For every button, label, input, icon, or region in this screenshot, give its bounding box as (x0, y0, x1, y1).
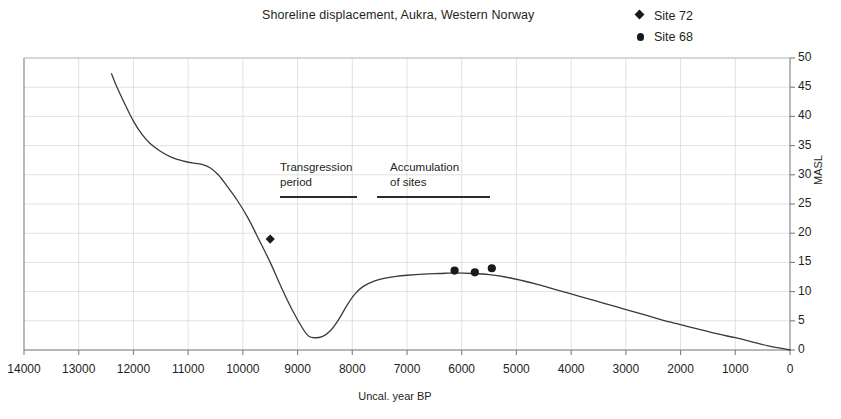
y-tick-label: 20 (798, 225, 824, 239)
y-tick-label: 25 (798, 196, 824, 210)
y-tick-label: 30 (798, 167, 824, 181)
x-tick-label: 0 (760, 362, 820, 376)
axis-lines (24, 58, 795, 355)
chart-figure: Shoreline displacement, Aukra, Western N… (0, 0, 841, 419)
x-tick-label: 8000 (322, 362, 382, 376)
y-tick-label: 45 (798, 79, 824, 93)
legend-label-site-72: Site 72 (654, 9, 693, 23)
y-tick-label: 35 (798, 138, 824, 152)
x-tick-label: 12000 (103, 362, 163, 376)
x-tick-label: 7000 (377, 362, 437, 376)
data-point-circle (471, 268, 479, 276)
legend-item-site-68[interactable]: Site 68 (634, 26, 693, 47)
x-tick-label: 9000 (268, 362, 328, 376)
data-point-circle (451, 266, 459, 274)
x-tick-label: 2000 (651, 362, 711, 376)
annotation-accumulation-bar (377, 196, 490, 198)
annotation-accumulation-line2: of sites (390, 175, 459, 190)
chart-title: Shoreline displacement, Aukra, Western N… (262, 8, 534, 22)
data-point-circle (488, 264, 496, 272)
annotation-accumulation-line1: Accumulation (390, 160, 459, 175)
y-tick-label: 10 (798, 284, 824, 298)
plot-area (0, 0, 841, 419)
gridlines (24, 58, 790, 350)
x-tick-label: 1000 (705, 362, 765, 376)
x-tick-label: 6000 (432, 362, 492, 376)
y-tick-label: 0 (798, 342, 824, 356)
legend-item-site-72[interactable]: Site 72 (634, 5, 693, 26)
x-tick-label: 11000 (158, 362, 218, 376)
legend-label-site-68: Site 68 (654, 30, 693, 44)
circle-marker-icon (634, 30, 648, 44)
y-tick-label: 40 (798, 108, 824, 122)
displacement-curve (112, 74, 790, 350)
annotation-accumulation: Accumulation of sites (390, 160, 459, 190)
x-tick-label: 5000 (486, 362, 546, 376)
annotation-transgression-line1: Transgression (280, 160, 352, 175)
annotation-transgression-bar (280, 196, 357, 198)
chart-legend: Site 72 Site 68 (634, 5, 693, 47)
x-tick-label: 10000 (213, 362, 273, 376)
y-tick-label: 50 (798, 50, 824, 64)
x-tick-label: 13000 (49, 362, 109, 376)
x-tick-label: 4000 (541, 362, 601, 376)
y-tick-label: 15 (798, 254, 824, 268)
x-tick-label: 14000 (0, 362, 54, 376)
x-tick-label: 3000 (596, 362, 656, 376)
diamond-marker-icon (634, 9, 648, 23)
scatter-site-72 (266, 234, 275, 243)
annotation-transgression-line2: period (280, 175, 352, 190)
annotation-transgression: Transgression period (280, 160, 352, 190)
y-tick-label: 5 (798, 313, 824, 327)
x-axis-label: Uncal. year BP (0, 390, 790, 402)
data-point-diamond (266, 234, 275, 243)
